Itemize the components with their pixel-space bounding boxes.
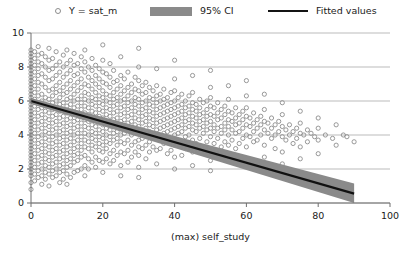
scatter-point [115, 102, 119, 106]
scatter-point [47, 152, 51, 156]
scatter-point [76, 145, 80, 149]
scatter-point [144, 113, 148, 117]
scatter-point [115, 136, 119, 140]
scatter-point [173, 89, 177, 93]
scatter-point [251, 111, 255, 115]
scatter-point [47, 118, 51, 122]
scatter-point [104, 72, 108, 76]
scatter-point [47, 184, 51, 188]
plot-area: 0246810020406080100 (max) self_study [0, 0, 401, 256]
scatter-point [47, 111, 51, 115]
scatter-point [241, 109, 245, 113]
scatter-point [173, 77, 177, 81]
plot-svg: 0246810020406080100 (max) self_study [0, 0, 401, 256]
scatter-point [255, 138, 259, 142]
scatter-point [68, 123, 72, 127]
scatter-point [54, 84, 58, 88]
scatter-point [205, 140, 209, 144]
scatter-point [108, 107, 112, 111]
scatter-point [234, 147, 238, 151]
scatter-point [76, 158, 80, 162]
scatter-point [32, 77, 36, 81]
scatter-point [208, 126, 212, 130]
scatter-point [86, 75, 90, 79]
scatter-point [230, 119, 234, 123]
scatter-point [65, 82, 69, 86]
scatter-point [144, 80, 148, 84]
scatter-point [223, 140, 227, 144]
y-tick-label-0: 0 [18, 197, 24, 208]
scatter-point [187, 111, 191, 115]
scatter-point [244, 145, 248, 149]
scatter-point [111, 68, 115, 72]
scatter-point [133, 75, 137, 79]
scatter-point [43, 85, 47, 89]
scatter-point [151, 104, 155, 108]
scatter-point [90, 160, 94, 164]
scatter-point [104, 82, 108, 86]
scatter-point [111, 148, 115, 152]
scatter-point [54, 126, 58, 130]
scatter-point [65, 48, 69, 52]
scatter-point [79, 148, 83, 152]
scatter-point [208, 85, 212, 89]
x-tick-label-20: 20 [97, 210, 109, 221]
scatter-point [36, 87, 40, 91]
scatter-point [241, 118, 245, 122]
scatter-point [61, 162, 65, 166]
scatter-point [230, 111, 234, 115]
scatter-point [248, 116, 252, 120]
scatter-point [208, 68, 212, 72]
scatter-point [129, 90, 133, 94]
scatter-point [122, 89, 126, 93]
scatter-point [180, 102, 184, 106]
scatter-point [40, 140, 44, 144]
scatter-point [194, 102, 198, 106]
scatter-point [58, 70, 62, 74]
scatter-point [144, 119, 148, 123]
scatter-point [122, 118, 126, 122]
scatter-point [79, 94, 83, 98]
scatter-point [50, 56, 54, 60]
scatter-point [68, 136, 72, 140]
scatter-point [90, 56, 94, 60]
scatter-point [47, 172, 51, 176]
scatter-point [76, 104, 80, 108]
scatter-point [47, 124, 51, 128]
scatter-point [32, 152, 36, 156]
scatter-point [76, 138, 80, 142]
scatter-point [151, 111, 155, 115]
scatter-point [126, 70, 130, 74]
scatter-point [122, 141, 126, 145]
scatter-point [68, 102, 72, 106]
scatter-point [94, 138, 98, 142]
scatter-point [43, 177, 47, 181]
scatter-point [72, 84, 76, 88]
scatter-point [205, 107, 209, 111]
scatter-point [94, 145, 98, 149]
scatter-point [119, 55, 123, 59]
scatter-point [122, 152, 126, 156]
scatter-point [316, 126, 320, 130]
scatter-point [129, 119, 133, 123]
scatter-point [76, 89, 80, 93]
scatter-point [190, 164, 194, 168]
scatter-point [190, 73, 194, 77]
scatter-point [298, 109, 302, 113]
scatter-point [101, 130, 105, 134]
scatter-point [126, 85, 130, 89]
scatter-point [108, 75, 112, 79]
scatter-point [137, 111, 141, 115]
scatter-point [68, 116, 72, 120]
scatter-point [180, 109, 184, 113]
scatter-point [83, 48, 87, 52]
scatter-point [111, 158, 115, 162]
scatter-point [241, 126, 245, 130]
scatter-point [277, 130, 281, 134]
scatter-point [68, 68, 72, 72]
scatter-point [115, 116, 119, 120]
x-tick-label-80: 80 [312, 210, 324, 221]
scatter-point [108, 128, 112, 132]
scatter-point [79, 121, 83, 125]
scatter-point [201, 118, 205, 122]
